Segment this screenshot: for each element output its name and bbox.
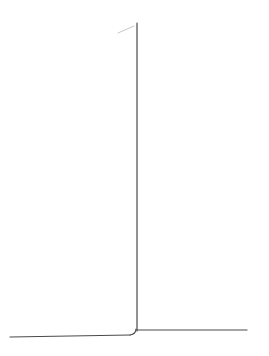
line-drawing [0,0,269,356]
left-baseline [10,335,130,337]
faint-diagonal-stroke [118,26,134,33]
corner-curve [130,329,136,335]
